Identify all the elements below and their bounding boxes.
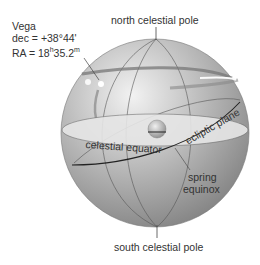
spring-equinox-label-2: equinox bbox=[183, 183, 220, 195]
vega-star bbox=[98, 81, 104, 87]
spring-equinox-label-1: spring bbox=[188, 171, 217, 183]
vega-label: Vega bbox=[12, 20, 36, 32]
south-celestial-pole-label: south celestial pole bbox=[114, 241, 203, 253]
vega-right-ascension: RA = 18h35.2m bbox=[12, 44, 80, 59]
vega-declination: dec = +38°44' bbox=[12, 32, 77, 44]
north-celestial-pole-label: north celestial pole bbox=[111, 14, 199, 26]
vega-glow bbox=[85, 79, 91, 85]
ra-m-unit: m bbox=[74, 46, 80, 53]
ra-minutes: 35.2 bbox=[54, 47, 74, 59]
earth-icon bbox=[148, 120, 166, 138]
ra-hours: RA = 18 bbox=[12, 47, 50, 59]
